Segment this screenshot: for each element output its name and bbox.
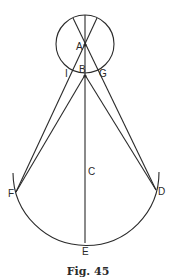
label-G: G: [99, 68, 107, 79]
figure-caption: Fig. 45: [67, 265, 110, 278]
label-D: D: [158, 186, 165, 197]
line-B-to-F: [16, 75, 85, 192]
label-B: B: [79, 64, 86, 75]
label-A: A: [76, 41, 83, 52]
label-I: I: [65, 68, 68, 79]
geometry-diagram: A B I G C F D E Fig. 45: [0, 0, 176, 278]
label-E: E: [82, 246, 89, 257]
label-C: C: [88, 166, 95, 177]
line-B-to-D: [85, 75, 156, 190]
point-A: [83, 43, 86, 46]
label-F: F: [8, 188, 14, 199]
large-arc: [13, 172, 159, 246]
